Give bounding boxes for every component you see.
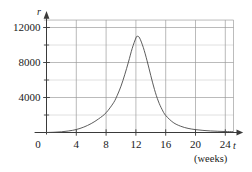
x-axis-unit-label: (weeks) xyxy=(194,154,227,165)
y-tick-label: 12000 xyxy=(0,22,41,33)
y-tick-label: 8000 xyxy=(0,57,41,68)
x-tick-label: 8 xyxy=(94,139,118,150)
x-tick-label: 4 xyxy=(64,139,88,150)
chart-figure: 1200080004000 04812162024 r t (weeks) xyxy=(0,0,252,172)
x-tick-label: 0 xyxy=(26,139,50,150)
data-curve xyxy=(47,36,233,132)
horizontal-gridlines xyxy=(44,20,234,115)
y-axis-label: r xyxy=(37,7,41,17)
axis-lines xyxy=(35,11,244,136)
y-tick-label: 4000 xyxy=(0,92,41,103)
x-axis-label: t xyxy=(233,141,236,151)
x-tick-label: 20 xyxy=(184,139,208,150)
x-axis-arrowhead xyxy=(236,130,243,136)
vertical-gridlines xyxy=(76,20,233,132)
x-tick-label: 16 xyxy=(154,139,178,150)
x-tick-label: 12 xyxy=(124,139,148,150)
y-axis-arrowhead xyxy=(44,11,50,19)
